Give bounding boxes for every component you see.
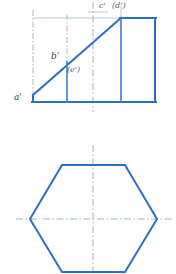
label-a-prime: a' <box>14 92 22 102</box>
label-c-prime: c' <box>99 1 106 10</box>
point-labels-group: a' b' (e') c' (d') <box>14 1 126 102</box>
projection-drawing-svg: a' b' (e') c' (d') <box>0 0 176 274</box>
label-b-prime: b' <box>51 51 59 61</box>
label-e-prime: (e') <box>67 65 80 74</box>
label-d-prime: (d') <box>112 1 126 10</box>
engineering-drawing-canvas: a' b' (e') c' (d') <box>0 0 176 274</box>
front-view-cut-line <box>33 18 121 95</box>
